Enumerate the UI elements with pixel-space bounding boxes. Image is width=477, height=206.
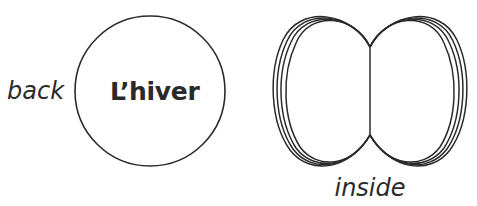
- back-label: back: [7, 79, 64, 103]
- inside-left-panel: [273, 17, 370, 166]
- card-diagram: back L’hiver inside: [0, 0, 477, 206]
- card-title: L’hiver: [110, 79, 190, 104]
- inside-label: inside: [330, 176, 410, 200]
- inside-right-panel: [370, 17, 467, 166]
